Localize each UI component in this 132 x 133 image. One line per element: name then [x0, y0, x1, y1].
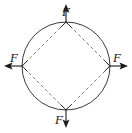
figure-container: F F F F	[0, 0, 132, 133]
force-left-label: F	[9, 50, 19, 65]
force-bottom-label: F	[54, 112, 64, 127]
force-diagram: F F F F	[0, 0, 132, 133]
force-top-label: F	[61, 4, 71, 19]
force-right-label: F	[112, 50, 122, 65]
